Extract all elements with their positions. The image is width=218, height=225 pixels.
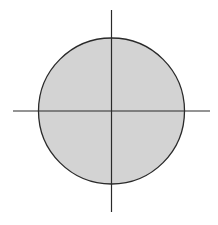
circle-axes-diagram bbox=[0, 0, 218, 225]
diagram-canvas bbox=[0, 0, 218, 225]
